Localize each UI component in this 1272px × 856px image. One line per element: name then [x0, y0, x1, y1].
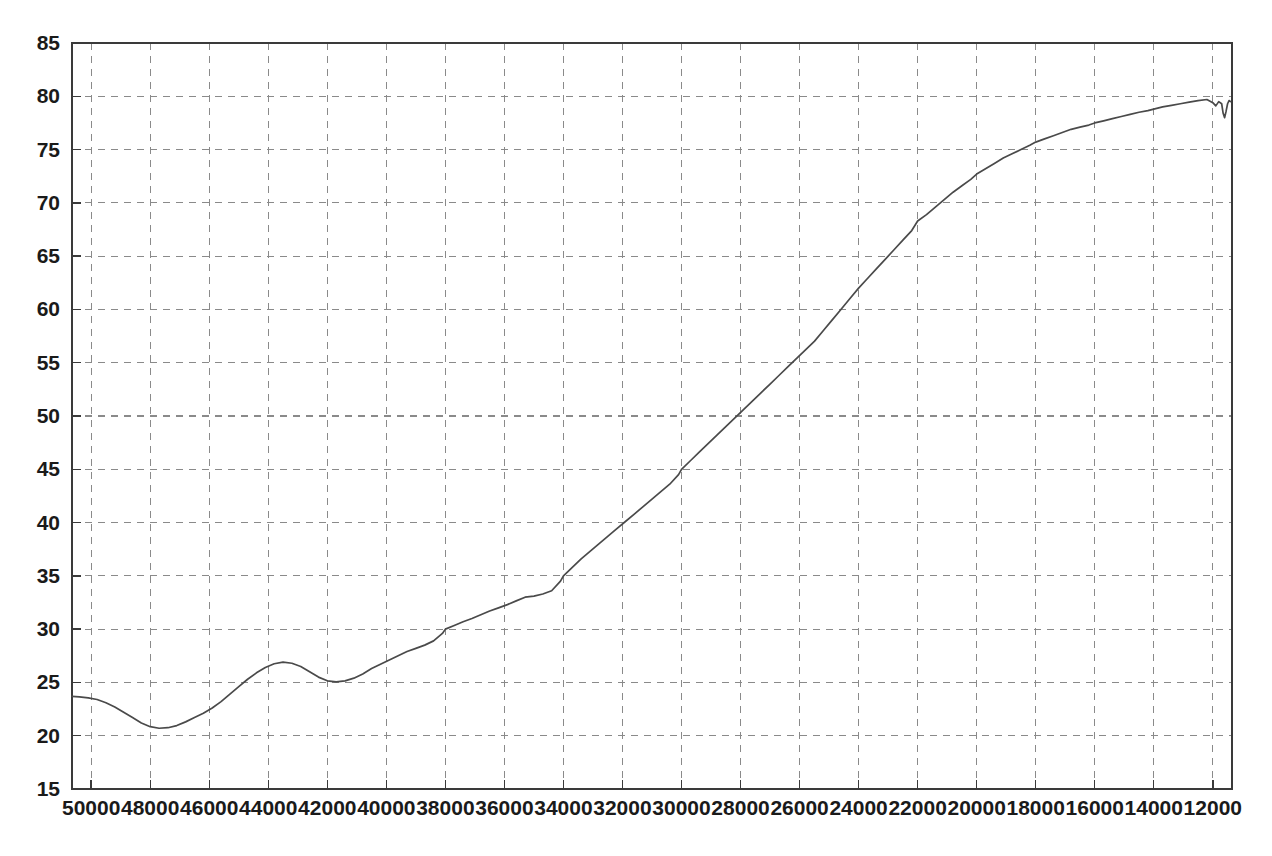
x-axis-tick-label: 32000	[593, 796, 651, 819]
y-axis-tick-label: 80	[37, 84, 60, 107]
x-axis-tick-label: 46000	[180, 796, 238, 819]
y-axis-tick-label: 60	[37, 297, 60, 320]
x-axis-tick-label: 42000	[298, 796, 356, 819]
y-axis-tick-label: 55	[37, 351, 61, 374]
data-series-line	[72, 99, 1231, 728]
y-axis-tick-label: 65	[37, 244, 61, 267]
y-axis-tick-labels: 152025303540455055606570758085	[37, 31, 61, 800]
line-chart: 152025303540455055606570758085 500004800…	[0, 0, 1272, 856]
y-axis-tick-label: 70	[37, 191, 60, 214]
x-axis-tick-label: 48000	[121, 796, 179, 819]
grid-lines	[72, 43, 1232, 789]
x-axis-tick-label: 26000	[770, 796, 828, 819]
x-axis-tick-label: 38000	[416, 796, 474, 819]
y-axis-tick-label: 50	[37, 404, 60, 427]
x-axis-tick-label: 36000	[475, 796, 533, 819]
x-axis-tick-label: 16000	[1066, 796, 1124, 819]
y-axis-tick-label: 20	[37, 724, 60, 747]
x-axis-tick-label: 44000	[239, 796, 297, 819]
chart-container: 152025303540455055606570758085 500004800…	[0, 0, 1272, 856]
x-axis-tick-labels: 5000048000460004400042000400003800036000…	[62, 796, 1242, 819]
x-axis-tick-label: 12000	[1184, 796, 1242, 819]
y-axis-tick-label: 75	[37, 138, 61, 161]
x-axis-tick-label: 14000	[1125, 796, 1183, 819]
y-axis-tick-label: 25	[37, 670, 61, 693]
y-axis-tick-label: 30	[37, 617, 60, 640]
x-axis-tick-label: 30000	[652, 796, 710, 819]
x-axis-tick-label: 34000	[534, 796, 592, 819]
x-axis-tick-label: 24000	[829, 796, 887, 819]
y-axis-tick-label: 35	[37, 564, 61, 587]
y-axis-tick-label: 15	[37, 777, 61, 800]
x-axis-tick-label: 28000	[711, 796, 769, 819]
y-axis-tick-label: 85	[37, 31, 61, 54]
x-axis-tick-label: 50000	[62, 796, 120, 819]
x-axis-tick-label: 40000	[357, 796, 415, 819]
x-axis-tick-label: 22000	[888, 796, 946, 819]
y-axis-tick-label: 45	[37, 457, 61, 480]
x-axis-tick-label: 20000	[947, 796, 1005, 819]
x-axis-tick-label: 18000	[1007, 796, 1065, 819]
y-axis-tick-label: 40	[37, 511, 60, 534]
